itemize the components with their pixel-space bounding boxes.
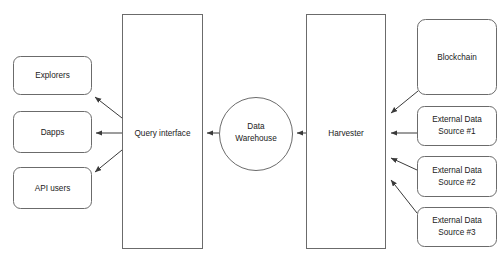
node-explorers[interactable]: Explorers xyxy=(14,57,92,95)
node-harvester[interactable]: Harvester xyxy=(307,15,386,249)
node-external-data-source-3[interactable]: External Data Source #3 xyxy=(418,208,497,247)
explorers-label: Explorers xyxy=(35,71,70,80)
data-warehouse-label-line2: Warehouse xyxy=(235,134,277,143)
harvester-label: Harvester xyxy=(328,129,364,138)
architecture-diagram: Explorers Dapps API users Query interfac… xyxy=(0,0,503,261)
blockchain-label: Blockchain xyxy=(437,53,477,62)
external-data-source-3-box[interactable] xyxy=(418,208,497,247)
node-external-data-source-2[interactable]: External Data Source #2 xyxy=(418,157,497,197)
external-data-source-2-label-line2: Source #2 xyxy=(438,178,476,187)
connector-query-to-api-users xyxy=(95,150,122,172)
dapps-label: Dapps xyxy=(41,128,65,137)
external-data-source-3-label-line2: Source #3 xyxy=(438,228,476,237)
external-data-source-2-box[interactable] xyxy=(418,157,497,197)
diagram-canvas: Explorers Dapps API users Query interfac… xyxy=(0,0,503,261)
external-data-source-1-label-line2: Source #1 xyxy=(438,127,476,136)
external-data-source-2-label-line1: External Data xyxy=(432,166,482,175)
node-dapps[interactable]: Dapps xyxy=(14,112,92,153)
query-interface-label: Query interface xyxy=(135,129,191,138)
node-query-interface[interactable]: Query interface xyxy=(123,15,203,249)
connector-source3-to-harvester xyxy=(391,180,417,213)
node-api-users[interactable]: API users xyxy=(14,168,92,209)
external-data-source-1-label-line1: External Data xyxy=(432,115,482,124)
connector-query-to-explorers xyxy=(95,97,122,118)
external-data-source-3-label-line1: External Data xyxy=(432,216,482,225)
api-users-label: API users xyxy=(35,184,71,193)
node-blockchain[interactable]: Blockchain xyxy=(418,20,497,95)
external-data-source-1-box[interactable] xyxy=(418,107,497,146)
node-data-warehouse[interactable]: Data Warehouse xyxy=(220,98,293,171)
connector-source2-to-harvester xyxy=(391,158,417,170)
node-external-data-source-1[interactable]: External Data Source #1 xyxy=(418,107,497,146)
connector-blockchain-to-harvester xyxy=(391,91,418,113)
data-warehouse-label-line1: Data xyxy=(247,122,265,131)
